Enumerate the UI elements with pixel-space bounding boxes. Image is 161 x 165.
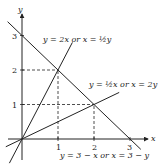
label-line-3-minus-x: y = 3 − x or x = 3 − y [59,151,150,160]
diagram-canvas: x y 1 2 3 1 2 3 y = 2x or x = ½y y = ½x … [0,0,161,165]
label-line-half-x: y = ½x or x = 2y [88,80,158,89]
y-tick-label-2: 2 [12,66,17,75]
y-axis-label: y [17,5,23,14]
line-2x [9,42,72,163]
dashed-guides [22,70,94,139]
label-line-2x: y = 2x or x = ½y [42,35,112,44]
y-tick-label-1: 1 [12,101,17,110]
x-axis-label: x [151,134,156,143]
y-tick-label-3: 3 [12,32,17,41]
